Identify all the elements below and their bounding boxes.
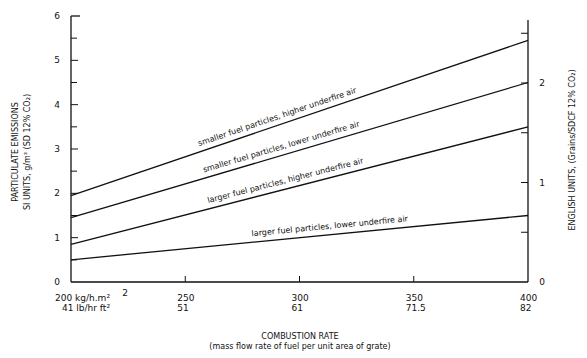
x-tick-label-english: 82 [520,303,531,313]
y-axis-left-title: PARTICULATE EMISSIONS SI UNITS, g/m³ (SD… [11,94,32,210]
x-tick-label-english: 51 [177,303,188,313]
x-axis-title: COMBUSTION RATE [261,332,338,341]
y-right-tick-label: 0 [539,277,545,287]
y-axis-right-title: ENGLISH UNITS, (Grains/SDCF 12% CO₂) [568,69,577,230]
y-axis-left-title-line1: PARTICULATE EMISSIONS [11,102,20,202]
x-tick-label-english: 41 lb/hr ft² [62,303,110,313]
x-axis-ticks [185,276,414,282]
x-tick-label-si: 250 [177,293,194,303]
x-tick-label-si: 400 [520,293,537,303]
y-left-tick-label: 3 [54,144,60,154]
x-tick-label-english: 71.5 [406,303,426,313]
series-line [71,216,528,260]
y-axis-left-title-line2: SI UNITS, g/m³ (SD 12% CO₂) [23,94,32,210]
x-tick-label-si: 300 [292,293,309,303]
chart: 0123456 012 200 kg/h.m²41 lb/hr ft²25051… [0,0,587,358]
x-stray-label: 2 [122,288,128,298]
y-left-tick-label: 0 [54,277,60,287]
x-tick-label-english: 61 [292,303,303,313]
series-labels: smaller fuel particles, higher underfire… [197,86,409,239]
y-axis-left-ticks [71,38,78,260]
y-right-tick-label: 1 [539,178,545,188]
y-left-tick-label: 2 [54,188,60,198]
y-axis-left-tick-labels: 0123456 [54,11,60,287]
y-right-tick-label: 2 [539,78,545,88]
y-left-tick-label: 6 [54,11,60,21]
series-line [71,83,528,218]
x-axis-subtitle: (mass flow rate of fuel per unit area of… [209,342,390,351]
y-left-tick-label: 4 [54,100,60,110]
y-axis-right-ticks [521,33,528,232]
y-left-tick-label: 5 [54,55,60,65]
y-axis-right-title-text: ENGLISH UNITS, (Grains/SDCF 12% CO₂) [568,69,577,230]
y-left-tick-label: 1 [54,233,60,243]
x-tick-label-si: 350 [406,293,423,303]
x-tick-label-si: 200 kg/h.m² [55,293,110,303]
axes [71,16,528,282]
y-axis-right-tick-labels: 012 [539,78,545,287]
series-label: smaller fuel particles, higher underfire… [197,86,358,148]
